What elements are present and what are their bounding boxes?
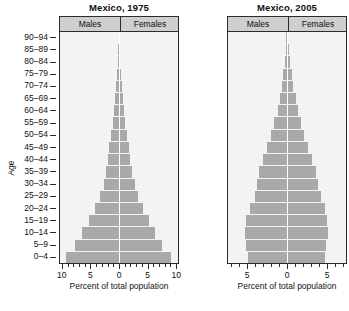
age-tick-label: 50–54 (24, 130, 48, 139)
x-tick-minor (239, 264, 240, 267)
y-axis-title: Age (6, 148, 16, 188)
x-tick-minor (295, 264, 296, 267)
x-tick-minor (85, 264, 86, 267)
chart-panel-1975: Males Females (59, 16, 179, 264)
age-tick-mark (50, 147, 56, 148)
panel-title-left: Mexico, 1975 (58, 2, 180, 13)
age-tick-label: 35–39 (24, 167, 48, 176)
x-axis-title-right: Percent of total population (213, 281, 349, 291)
x-tick-label: 10 (171, 270, 180, 280)
legend-females-left: Females (120, 18, 180, 31)
age-tick-label: 45–49 (24, 143, 48, 152)
x-tick-major (176, 264, 177, 269)
x-tick-minor (343, 264, 344, 267)
x-axis-title-left: Percent of total population (45, 281, 193, 291)
age-tick-mark (50, 86, 56, 87)
age-tick-mark (50, 159, 56, 160)
x-tick-major (287, 264, 288, 269)
x-tick-major (247, 264, 248, 269)
age-tick-label: 10–14 (24, 228, 48, 237)
age-tick-mark (50, 74, 56, 75)
age-tick-mark (50, 208, 56, 209)
x-tick-label: 5 (145, 270, 150, 280)
bar-female (119, 252, 171, 263)
age-tick-mark (50, 257, 56, 258)
x-tick-minor (113, 264, 114, 267)
center-axis-line-right (287, 32, 288, 263)
age-tick-mark (50, 184, 56, 185)
x-tick-label: 5 (245, 270, 250, 280)
legend-band-left: Males Females (60, 17, 178, 32)
x-tick-minor (165, 264, 166, 267)
x-tick-major (119, 264, 120, 269)
x-tick-minor (303, 264, 304, 267)
x-tick-major (148, 264, 149, 269)
plot-area-2005 (228, 32, 346, 263)
age-tick-label: 60–64 (24, 106, 48, 115)
legend-band-right: Males Females (228, 17, 346, 32)
x-tick-major (62, 264, 63, 269)
x-tick-minor (79, 264, 80, 267)
x-axis-1975: Percent of total population 1050510 (59, 264, 179, 294)
age-tick-mark (50, 196, 56, 197)
age-tick-mark (50, 49, 56, 50)
age-tick-mark (50, 123, 56, 124)
age-tick-mark (50, 232, 56, 233)
chart-panel-2005: Males Females (227, 16, 347, 264)
x-axis-2005: Percent of total population 505 (227, 264, 347, 294)
legend-females-right: Females (288, 18, 348, 31)
age-tick-label: 15–19 (24, 216, 48, 225)
x-tick-label: 5 (88, 270, 93, 280)
y-axis: Age 90–9485–8980–8475–7970–7465–6960–645… (0, 31, 57, 264)
age-tick-label: 90–94 (24, 33, 48, 42)
age-tick-label: 75–79 (24, 69, 48, 78)
legend-males-right: Males (228, 18, 288, 31)
population-pyramid-figure: Mexico, 1975 Mexico, 2005 Age 90–9485–89… (0, 0, 349, 311)
age-tick-mark (50, 220, 56, 221)
age-tick-mark (50, 171, 56, 172)
x-tick-minor (96, 264, 97, 267)
x-tick-minor (231, 264, 232, 267)
x-tick-minor (130, 264, 131, 267)
x-tick-label: 0 (285, 270, 290, 280)
age-tick-mark (50, 245, 56, 246)
age-tick-label: 55–59 (24, 118, 48, 127)
x-tick-label: 5 (325, 270, 330, 280)
center-axis-line-left (119, 32, 120, 263)
x-tick-minor (170, 264, 171, 267)
age-tick-label: 85–89 (24, 45, 48, 54)
x-tick-minor (271, 264, 272, 267)
x-tick-major (90, 264, 91, 269)
x-tick-label: 10 (57, 270, 66, 280)
age-tick-label: 20–24 (24, 204, 48, 213)
bar-male (66, 252, 119, 263)
x-tick-minor (142, 264, 143, 267)
plot-area-1975 (60, 32, 178, 263)
x-tick-minor (335, 264, 336, 267)
x-tick-minor (279, 264, 280, 267)
bar-male (248, 252, 287, 263)
x-tick-minor (159, 264, 160, 267)
x-tick-minor (136, 264, 137, 267)
age-tick-label: 40–44 (24, 155, 48, 164)
x-tick-minor (153, 264, 154, 267)
age-tick-label: 65–69 (24, 94, 48, 103)
x-tick-minor (125, 264, 126, 267)
x-tick-minor (102, 264, 103, 267)
x-tick-minor (68, 264, 69, 267)
age-tick-mark (50, 98, 56, 99)
x-tick-minor (108, 264, 109, 267)
age-tick-mark (50, 37, 56, 38)
x-tick-minor (255, 264, 256, 267)
age-tick-label: 5–9 (34, 240, 48, 249)
x-tick-major (327, 264, 328, 269)
age-tick-label: 70–74 (24, 81, 48, 90)
panel-title-right: Mexico, 2005 (226, 2, 348, 13)
age-tick-mark (50, 110, 56, 111)
x-tick-minor (73, 264, 74, 267)
age-tick-label: 30–34 (24, 179, 48, 188)
x-tick-minor (319, 264, 320, 267)
x-tick-minor (311, 264, 312, 267)
legend-males-left: Males (60, 18, 120, 31)
age-tick-mark (50, 62, 56, 63)
